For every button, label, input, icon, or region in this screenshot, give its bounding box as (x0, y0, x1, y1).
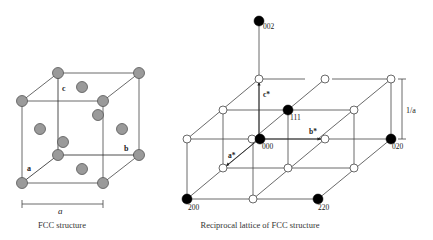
vector-c-label: c (62, 84, 66, 93)
face-center-atom (77, 82, 88, 93)
fcc-lattice-parameter-dimension (22, 200, 103, 208)
corner-atom (98, 178, 109, 189)
corner-atom (17, 178, 28, 189)
face-center-atom (77, 164, 88, 175)
corner-atom (53, 68, 64, 79)
open-node (284, 164, 292, 172)
reciprocal-vector-label: c* (263, 90, 270, 99)
edge-line (103, 73, 139, 101)
face-center-atom (58, 137, 69, 148)
reciprocal-caption: Reciprocal lattice of FCC structure (201, 220, 320, 230)
reflection-label-020: 020 (392, 142, 404, 151)
reciprocal-filled-nodes: 002111000020200220 (182, 16, 404, 212)
reflection-label-220: 220 (318, 203, 330, 212)
corner-atom (134, 68, 145, 79)
reciprocal-spacing-label: 1/a (406, 106, 416, 115)
reciprocal-dimension-bar (398, 79, 406, 139)
reciprocal-lattice-panel: a*b*c* 002111000020200220 1/a Reciprocal… (182, 16, 416, 230)
lattice-parameter-label: a (58, 206, 63, 216)
open-node (350, 164, 358, 172)
corner-atom (98, 96, 109, 107)
open-node (321, 135, 329, 143)
open-node (387, 75, 395, 83)
fcc-diagram-figure: abc a FCC structure a*b*c* 0021110000202… (0, 0, 433, 240)
reciprocal-vector-label: a* (228, 151, 236, 160)
open-node (183, 135, 191, 143)
face-center-atom (93, 110, 104, 121)
open-node (321, 75, 329, 83)
reciprocal-vector-label: b* (309, 127, 317, 136)
open-node (249, 195, 257, 203)
reflection-label-002: 002 (263, 22, 275, 31)
corner-atom (53, 150, 64, 161)
fcc-caption: FCC structure (38, 220, 86, 230)
face-center-atom (35, 124, 46, 135)
open-node (350, 106, 358, 114)
reflection-label-200: 200 (188, 203, 200, 212)
corner-atom (17, 96, 28, 107)
edge-line (22, 73, 58, 101)
corner-atom (134, 150, 145, 161)
vector-a-label: a (27, 164, 31, 173)
open-node (219, 106, 227, 114)
reflection-label-111: 111 (290, 113, 301, 122)
reflection-label-000: 000 (262, 142, 274, 151)
fcc-atoms (17, 68, 145, 189)
edge-line (103, 155, 139, 183)
fcc-structure-panel: abc a FCC structure (17, 68, 145, 231)
open-node (219, 164, 227, 172)
vector-b-label: b (124, 144, 129, 153)
face-center-atom (117, 124, 128, 135)
open-node (255, 75, 263, 83)
